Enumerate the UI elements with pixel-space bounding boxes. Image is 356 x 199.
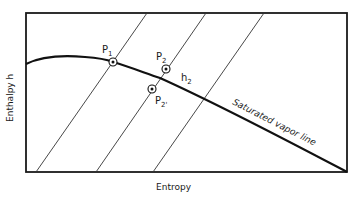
point-p2-label: P2 <box>156 51 167 65</box>
y-axis-label: Enthalpy h <box>5 74 15 122</box>
mollier-diagram: P1 P2 P2' h2 Saturated vapor line Entrop… <box>0 0 356 199</box>
x-axis-label: Entropy <box>156 182 192 192</box>
isobar-line-1 <box>36 13 147 172</box>
point-p2prime-label: P2' <box>155 95 167 109</box>
plot-frame <box>26 13 347 172</box>
point-p1-marker <box>109 58 117 66</box>
h2-annotation: h2 <box>181 72 192 86</box>
point-p2-marker <box>162 65 170 73</box>
isobar-line-3 <box>153 13 264 172</box>
saturated-vapor-label: Saturated vapor line <box>231 97 318 148</box>
point-p2prime-marker <box>148 85 156 93</box>
point-p1-label: P1 <box>102 44 113 58</box>
